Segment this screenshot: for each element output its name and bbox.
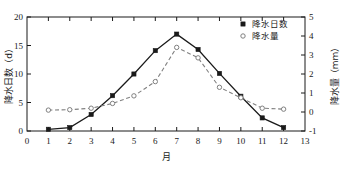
data-point-marker bbox=[175, 32, 179, 36]
x-tick-label: 7 bbox=[174, 136, 179, 146]
precipitation-line-chart: 012345678910111213 05101520 -1012345 降水日… bbox=[0, 0, 349, 172]
y-tick-label: 5 bbox=[19, 98, 24, 108]
data-point-marker bbox=[174, 45, 178, 49]
legend-marker-2 bbox=[241, 34, 245, 38]
legend-marker-1 bbox=[241, 22, 245, 26]
y2-tick-label: 0 bbox=[309, 107, 314, 117]
data-point-marker bbox=[282, 125, 286, 129]
data-point-marker bbox=[196, 56, 200, 60]
chart-figure: 012345678910111213 05101520 -1012345 降水日… bbox=[0, 0, 349, 172]
y2-tick-label: 5 bbox=[309, 12, 314, 22]
data-point-marker bbox=[260, 106, 264, 110]
x-tick-label: 13 bbox=[301, 136, 311, 146]
data-point-marker bbox=[46, 127, 50, 131]
chart-background bbox=[0, 0, 349, 172]
data-point-marker bbox=[217, 85, 221, 89]
data-point-marker bbox=[239, 96, 243, 100]
x-tick-label: 0 bbox=[25, 136, 30, 146]
y-tick-label: 20 bbox=[14, 12, 24, 22]
x-tick-label: 10 bbox=[236, 136, 246, 146]
data-point-marker bbox=[281, 107, 285, 111]
x-tick-label: 2 bbox=[68, 136, 73, 146]
y2-tick-label: 3 bbox=[309, 50, 314, 60]
data-point-marker bbox=[68, 125, 72, 129]
data-point-marker bbox=[260, 116, 264, 120]
data-point-marker bbox=[217, 71, 221, 75]
x-tick-label: 9 bbox=[217, 136, 222, 146]
y-axis-title: 降水日数（d） bbox=[3, 44, 14, 104]
x-tick-label: 1 bbox=[46, 136, 51, 146]
y2-axis-title: 降水量（mm） bbox=[329, 43, 340, 106]
data-point-marker bbox=[196, 47, 200, 51]
x-tick-label: 8 bbox=[196, 136, 201, 146]
y2-tick-label: 2 bbox=[309, 69, 314, 79]
y2-tick-label: 4 bbox=[309, 31, 314, 41]
data-point-marker bbox=[110, 101, 114, 105]
data-point-marker bbox=[46, 108, 50, 112]
y2-tick-label: 1 bbox=[309, 88, 314, 98]
legend-label-2: 降水量 bbox=[252, 31, 279, 41]
data-point-marker bbox=[68, 108, 72, 112]
y-tick-label: 15 bbox=[14, 41, 24, 51]
y-tick-label: 10 bbox=[14, 69, 24, 79]
x-tick-label: 5 bbox=[132, 136, 137, 146]
data-point-marker bbox=[132, 94, 136, 98]
x-tick-label: 4 bbox=[110, 136, 115, 146]
data-point-marker bbox=[153, 49, 157, 53]
data-point-marker bbox=[153, 79, 157, 83]
x-tick-label: 3 bbox=[89, 136, 94, 146]
data-point-marker bbox=[110, 94, 114, 98]
legend-label-1: 降水日数 bbox=[252, 19, 288, 29]
x-axis-title: 月 bbox=[162, 152, 171, 162]
data-point-marker bbox=[132, 72, 136, 76]
y-tick-label: 0 bbox=[19, 126, 24, 136]
y2-tick-label: -1 bbox=[309, 126, 317, 136]
data-point-marker bbox=[89, 106, 93, 110]
x-tick-label: 12 bbox=[279, 136, 288, 146]
x-tick-label: 11 bbox=[258, 136, 267, 146]
data-point-marker bbox=[89, 112, 93, 116]
x-tick-label: 6 bbox=[153, 136, 158, 146]
